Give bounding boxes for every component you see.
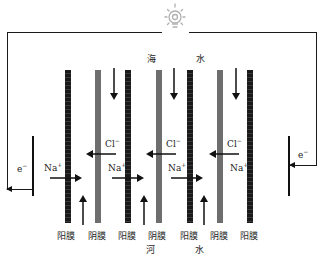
- sodium-label-4: Na+: [230, 161, 248, 173]
- seawater-label-left: 海: [147, 52, 156, 65]
- seawater-inflow-arrow-2: [170, 68, 178, 100]
- membrane-5-cation: [187, 70, 193, 223]
- river-inflow-arrow-3: [200, 195, 208, 225]
- membrane-7-cation: [247, 70, 253, 223]
- membrane-3-cation: [125, 70, 131, 223]
- wire-top-left: [7, 32, 162, 33]
- chloride-arrow-2: [146, 150, 176, 158]
- seawater-inflow-arrow-1: [110, 68, 118, 100]
- electron-arrow-left: [6, 186, 14, 192]
- sodium-arrow-2: [112, 174, 144, 182]
- electron-label-left: e−: [17, 162, 27, 174]
- chloride-arrow-1: [86, 150, 116, 158]
- sodium-arrow-3: [171, 174, 203, 182]
- membrane-label-7: 阳膜: [240, 229, 258, 242]
- river-inflow-arrow-2: [140, 195, 148, 225]
- left-electrode: [32, 136, 34, 196]
- membrane-4-anion: [156, 70, 162, 223]
- wire-right-vertical: [316, 32, 317, 165]
- membrane-2-anion: [95, 70, 101, 223]
- river-label-right: 水: [195, 243, 204, 256]
- river-inflow-arrow-1: [79, 195, 87, 225]
- membrane-1-cation: [65, 70, 71, 223]
- wire-left-vertical: [7, 32, 8, 189]
- membrane-label-6: 阴膜: [210, 229, 228, 242]
- chloride-label-1: Cl−: [105, 137, 120, 149]
- sodium-arrow-1: [50, 174, 82, 182]
- sodium-label-2: Na+: [108, 161, 126, 173]
- chloride-label-3: Cl−: [227, 137, 242, 149]
- chloride-label-2: Cl−: [166, 137, 181, 149]
- electron-arrow-right: [289, 162, 297, 168]
- seawater-label-right: 水: [196, 52, 205, 65]
- chloride-arrow-3: [209, 150, 239, 158]
- sodium-label-3: Na+: [168, 161, 186, 173]
- membrane-label-4: 阴膜: [148, 229, 166, 242]
- light-bulb-icon: [161, 2, 189, 36]
- river-label-left: 河: [146, 243, 155, 256]
- membrane-6-anion: [217, 70, 223, 223]
- wire-top-right: [189, 32, 317, 33]
- membrane-label-5: 阳膜: [180, 229, 198, 242]
- membrane-label-1: 阳膜: [57, 229, 75, 242]
- sodium-label-1: Na+: [44, 161, 62, 173]
- electron-label-right: e−: [298, 148, 308, 160]
- seawater-inflow-arrow-3: [232, 68, 240, 100]
- membrane-label-2: 阴膜: [88, 229, 106, 242]
- membrane-label-3: 阳膜: [118, 229, 136, 242]
